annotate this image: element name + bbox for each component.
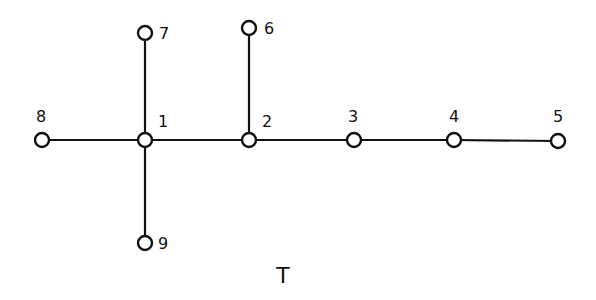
node-5: 5 [551,107,565,148]
tree-diagram: 123456789 T [0,0,596,300]
node-circle-icon [35,133,49,147]
node-circle-icon [242,21,256,35]
node-7: 7 [138,24,169,43]
node-circle-icon [138,236,152,250]
node-circle-icon [551,134,565,148]
node-label: 9 [158,234,168,253]
node-circle-icon [347,133,361,147]
node-label: 5 [553,107,563,126]
node-6: 6 [242,19,274,38]
edge-4-5 [454,140,558,141]
node-circle-icon [138,26,152,40]
node-2: 2 [242,112,272,147]
node-label: 3 [348,107,358,126]
node-circle-icon [138,133,152,147]
node-1: 1 [138,112,168,147]
node-label: 4 [449,107,459,126]
node-9: 9 [138,234,168,253]
node-3: 3 [347,107,361,147]
nodes: 123456789 [35,19,565,253]
node-label: 8 [36,107,46,126]
node-circle-icon [242,133,256,147]
node-label: 6 [264,19,274,38]
node-label: 7 [159,24,169,43]
node-4: 4 [447,107,461,147]
edges [42,28,558,243]
node-8: 8 [35,107,49,147]
diagram-caption: T [275,263,290,288]
node-label: 2 [262,112,272,131]
node-label: 1 [158,112,168,131]
node-circle-icon [447,133,461,147]
